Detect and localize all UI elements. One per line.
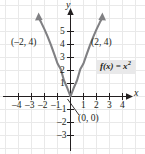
x-tick-label-4: 4 — [120, 101, 125, 111]
y-tick-label--1: –1 — [57, 105, 67, 115]
grid-lines — [0, 0, 145, 154]
function-equation-text: f(x) = x — [100, 61, 128, 71]
right-branch-arrowhead — [98, 13, 106, 21]
x-tick-label-3: 3 — [107, 101, 112, 111]
origin-label: (0, 0) — [78, 114, 99, 124]
y-tick-label-1: 1 — [60, 79, 65, 89]
point-label-left: (–2, 4) — [11, 38, 36, 48]
x-tick-label-1: 1 — [81, 101, 86, 111]
graph-canvas — [0, 0, 145, 154]
function-equation-exponent: 2 — [128, 59, 131, 66]
left-branch-arrowhead — [35, 13, 43, 21]
x-axis-arrowhead — [126, 93, 133, 99]
graph-figure: x y –4 –3 –2 –1 1 2 3 4 1 2 3 4 5 –1 –2 … — [0, 0, 145, 154]
y-axis-label: y — [66, 0, 70, 10]
point-label-right: (2, 4) — [91, 38, 112, 48]
y-tick-label-3: 3 — [60, 53, 65, 63]
x-tick-label--4: –4 — [12, 101, 22, 111]
y-tick-label--3: –3 — [57, 131, 67, 141]
x-axis-label: x — [134, 88, 138, 98]
function-equation-label: f(x) = x2 — [96, 60, 135, 74]
y-tick-label--2: –2 — [57, 118, 67, 128]
y-tick-label-2: 2 — [60, 66, 65, 76]
x-tick-label-2: 2 — [94, 101, 99, 111]
x-tick-label--2: –2 — [38, 101, 48, 111]
y-tick-label-4: 4 — [60, 40, 65, 50]
x-tick-label--3: –3 — [25, 101, 35, 111]
y-tick-label-5: 5 — [60, 27, 65, 37]
